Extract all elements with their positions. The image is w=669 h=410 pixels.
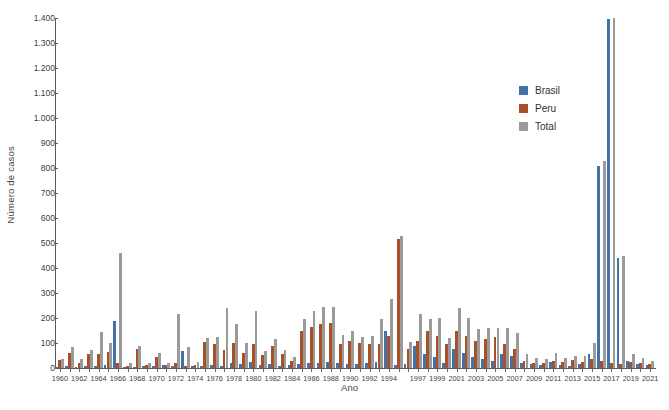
x-axis-tick-mark [437,369,438,372]
bar-group [558,18,568,368]
legend-swatch-icon [519,86,528,95]
x-axis-tick-mark [108,369,109,372]
y-axis-tick-label: 400 [9,264,55,272]
bar-group [336,18,346,368]
bar-total-1989 [342,335,345,368]
bar-group [481,18,491,368]
legend-swatch-icon [519,122,528,131]
y-axis-tick-label: 1.200 [9,64,55,72]
bar-group [316,18,326,368]
bar-total-1973 [187,347,190,368]
bar-total-1999 [438,318,441,368]
bar-group [287,18,297,368]
bar-total-1984 [293,357,296,368]
bar-group [239,18,249,368]
x-axis-title-text: Ano [341,382,358,393]
bar-total-1961 [71,347,74,368]
bar-total-2002 [467,318,470,368]
x-axis-tick-mark [534,369,535,372]
x-axis-tick-mark [205,369,206,372]
y-axis-tick-label: 100 [9,339,55,347]
bar-total-2013 [574,356,577,368]
bar-total-1988 [332,307,335,368]
bar-total-1965 [109,343,112,369]
x-axis-tick-mark [128,369,129,372]
x-axis-tick-mark [215,369,216,372]
bar-total-1981 [264,351,267,369]
bar-group [549,18,559,368]
x-axis-tick-mark [321,369,322,372]
bar-total-2012 [564,358,567,369]
bar-total-1963 [90,350,93,368]
bar-group [103,18,113,368]
bar-group [258,18,268,368]
bar-group [384,18,394,368]
bar-total-1992 [371,336,374,369]
bar-group [113,18,123,368]
x-axis-tick-mark [466,369,467,372]
bar-group [578,18,588,368]
bar-group [374,18,384,368]
x-axis-tick-mark [137,369,138,372]
bar-total-1966 [119,253,122,368]
bar-total-1969 [148,363,151,369]
bar-total-1985 [303,319,306,368]
x-axis-tick-mark [273,369,274,372]
x-axis-tick-mark [157,369,158,372]
bar-group [432,18,442,368]
bar-group [161,18,171,368]
bar-total-1994 [390,299,393,369]
bar-group [123,18,133,368]
y-axis-tick-label: 200 [9,314,55,322]
legend-item-peru[interactable]: Peru [519,104,560,113]
bar-group [461,18,471,368]
x-axis-tick-mark [650,369,651,372]
x-axis-tick-mark [118,369,119,372]
bar-group [345,18,355,368]
bar-group [200,18,210,368]
bar-group [607,18,617,368]
bar-total-1996 [409,342,412,368]
bar-group [539,18,549,368]
bar-group [220,18,230,368]
bar-total-1960 [61,359,64,369]
bar-total-1962 [80,359,83,368]
y-axis-tick-label: 1.300 [9,39,55,47]
bar-total-2019 [632,354,635,369]
bar-group [249,18,259,368]
bar-group [210,18,220,368]
bar-group [171,18,181,368]
bar-group [190,18,200,368]
x-axis-tick-mark [244,369,245,372]
bar-total-1987 [322,307,325,368]
y-axis-tick-label: 300 [9,289,55,297]
x-axis-tick-mark [360,369,361,372]
x-axis-tick-mark [89,369,90,372]
bar-group [568,18,578,368]
x-axis-tick-mark [582,369,583,372]
legend-item-brasil[interactable]: Brasil [519,86,560,95]
x-axis-tick-mark [524,369,525,372]
bar-total-1977 [226,308,229,368]
bar-group [587,18,597,368]
x-axis-tick-mark [640,369,641,372]
y-axis-tick-label: 0 [9,364,55,372]
bar-group [365,18,375,368]
bar-total-2016 [603,161,606,369]
x-axis-tick-mark [418,369,419,372]
bar-brasil-2016 [597,166,600,369]
bar-total-1964 [100,332,103,368]
bar-total-1993 [380,319,383,368]
x-axis-tick-mark [495,369,496,372]
bar-group [355,18,365,368]
bar-total-2020 [642,358,645,369]
x-axis-tick-mark [263,369,264,372]
x-axis-tick-mark [457,369,458,372]
bar-group [84,18,94,368]
x-axis-title: Ano [0,382,669,393]
bar-group [229,18,239,368]
legend-item-total[interactable]: Total [519,122,560,131]
bar-chart-figure: Número de casos 010020030040050060070080… [0,0,669,410]
y-axis-tick-label: 600 [9,214,55,222]
bar-total-1986 [313,311,316,369]
